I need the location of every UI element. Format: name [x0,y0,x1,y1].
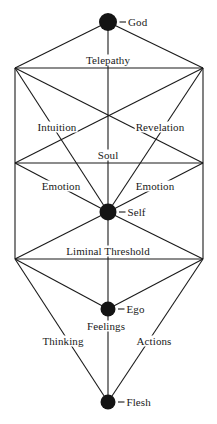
node-flesh[interactable] [101,395,116,410]
edge-label-telepathy: Telepathy [85,55,131,66]
edge-liminal-left-to-ego [15,259,108,309]
edge-label-intuition: Intuition [37,122,78,133]
edge-label-thinking: Thinking [41,336,84,347]
node-label-self: Self [128,207,146,218]
node-ego[interactable] [101,302,116,317]
edge-label-liminal-threshold: Liminal Threshold [65,246,151,257]
diagram-canvas: GodSelfEgoFleshTelepathyIntuitionRevelat… [0,0,217,424]
edge-label-feelings: Feelings [86,321,126,332]
edge-label-emotion-left: Emotion [41,181,82,192]
edge-label-emotion-right: Emotion [135,181,176,192]
edge-label-revelation: Revelation [135,122,186,133]
node-label-ego: Ego [127,304,145,315]
node-label-god: God [128,17,147,28]
edge-label-actions: Actions [136,336,173,347]
edge-liminal-right-to-ego [108,259,203,309]
node-god[interactable] [99,13,117,31]
edge-label-soul: Soul [97,150,120,161]
node-self[interactable] [100,204,117,221]
node-label-flesh: Flesh [127,397,151,408]
